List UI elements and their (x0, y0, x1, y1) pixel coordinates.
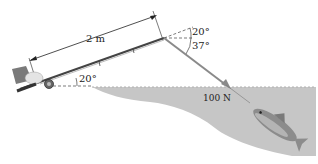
rod-handle (17, 84, 36, 91)
force-label: 100 N (203, 94, 231, 103)
tip-angle-lower-label: 37° (192, 41, 210, 51)
dimension-arrow-left (29, 56, 37, 61)
tip-rod-extension (164, 27, 193, 38)
fishing-rod-diagram: 2 m 20° 20° 37° 100 N (0, 0, 318, 164)
fishing-rod-highlight (40, 40, 164, 84)
extension-line-right (153, 11, 163, 40)
tip-upper-arc (190, 28, 191, 38)
base-angle-arc (76, 78, 77, 86)
diagram-graphics (0, 0, 318, 164)
tip-angle-upper-label: 20° (192, 27, 210, 37)
rod-angle-label: 20° (79, 74, 97, 84)
tip-lower-arc (186, 38, 191, 54)
rod-length-label: 2 m (86, 34, 105, 44)
hand (25, 72, 43, 84)
